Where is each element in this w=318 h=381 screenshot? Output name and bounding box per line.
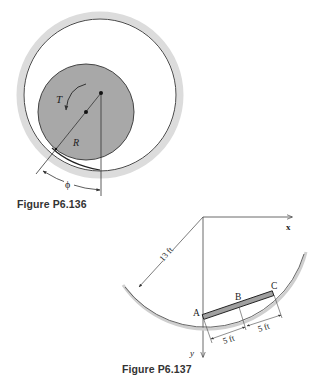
figure-137-caption: Figure P6.137 [122,363,192,375]
angle-label: ϕ [65,179,70,190]
radius-dimension-label: 13 ft [157,244,175,263]
point-c-label: C [271,281,277,291]
ring-center-dot [99,91,103,95]
extension-line-b [239,307,246,330]
extension-line-a [204,320,212,343]
radius-label: R [72,137,79,148]
point-b-label: B [235,292,241,302]
figure-p6-136: T R ϕ Figure P6.136 [17,15,180,210]
disk-center-dot [84,110,88,114]
track-arc-shade [123,252,306,329]
contact-point-dot [55,148,57,150]
y-axis-label: y [189,348,194,358]
point-a-label: A [193,308,200,318]
x-axis-label: x [286,222,291,232]
figure-136-caption: Figure P6.136 [17,198,87,210]
torque-label: T [56,93,63,105]
figure-p6-137: x y 13 ft A B C 5 ft 5 ft Figure P6.137 [122,217,306,375]
figures-canvas: T R ϕ Figure P6.136 x y 13 ft A B C [0,0,318,381]
